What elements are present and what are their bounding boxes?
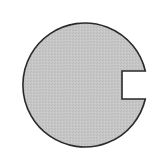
notched-circle-diagram [0,0,164,162]
notched-circle-shape [23,23,145,147]
